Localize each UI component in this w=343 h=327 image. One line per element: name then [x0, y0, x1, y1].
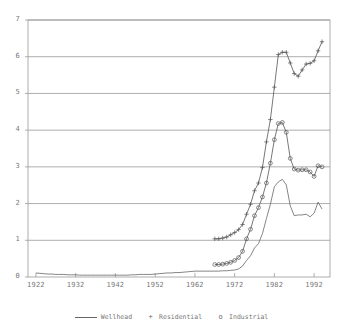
- legend-label-residential: Residential: [159, 313, 202, 321]
- plus-marker-icon: [268, 117, 272, 121]
- y-axis-label: 0: [8, 272, 20, 280]
- x-axis-label: 1992: [297, 281, 331, 289]
- y-axis-label: 5: [8, 88, 20, 96]
- plus-marker-icon: [320, 39, 324, 43]
- chart-container: Wellhead + Residential o Industrial 0123…: [0, 0, 343, 327]
- plus-marker-icon: +: [146, 313, 155, 321]
- y-axis-label: 2: [8, 199, 20, 207]
- x-axis-label: 1942: [98, 281, 132, 289]
- plus-marker-icon: [264, 140, 268, 144]
- line-swatch-icon: [75, 317, 97, 318]
- plus-marker-icon: [248, 202, 252, 206]
- plus-marker-icon: [316, 49, 320, 53]
- plus-marker-icon: [221, 236, 225, 240]
- y-axis-label: 4: [8, 125, 20, 133]
- legend-label-wellhead: Wellhead: [101, 313, 132, 321]
- plus-marker-icon: [272, 85, 276, 89]
- series-line-residential: [215, 42, 322, 239]
- y-axis-label: 6: [8, 52, 20, 60]
- plus-marker-icon: [312, 59, 316, 63]
- x-axis-label: 1952: [138, 281, 172, 289]
- chart-legend: Wellhead + Residential o Industrial: [0, 313, 343, 321]
- y-axis-label: 7: [8, 15, 20, 23]
- plus-marker-icon: [224, 235, 228, 239]
- x-axis-label: 1932: [59, 281, 93, 289]
- legend-label-industrial: Industrial: [229, 313, 268, 321]
- x-axis-label: 1962: [178, 281, 212, 289]
- circle-marker-icon: o: [216, 313, 225, 321]
- series-line-wellhead: [36, 179, 322, 275]
- plus-marker-icon: [260, 165, 264, 169]
- plus-marker-icon: [284, 50, 288, 54]
- plus-marker-icon: [304, 62, 308, 66]
- legend-item-residential: + Residential: [146, 313, 202, 321]
- plus-marker-icon: [308, 61, 312, 65]
- plus-marker-icon: [292, 71, 296, 75]
- plus-marker-icon: [256, 181, 260, 185]
- plus-marker-icon: [276, 52, 280, 56]
- plot-frame: [28, 20, 330, 277]
- legend-item-industrial: o Industrial: [216, 313, 268, 321]
- plus-marker-icon: [296, 74, 300, 78]
- y-axis-label: 1: [8, 235, 20, 243]
- plus-marker-icon: [252, 189, 256, 193]
- x-axis-label: 1982: [257, 281, 291, 289]
- plus-marker-icon: [300, 68, 304, 72]
- plus-marker-icon: [228, 233, 232, 237]
- x-axis-label: 1922: [19, 281, 53, 289]
- legend-item-wellhead: Wellhead: [75, 313, 132, 321]
- plot-area: [0, 0, 343, 327]
- x-axis-label: 1972: [218, 281, 252, 289]
- plus-marker-icon: [244, 212, 248, 216]
- plus-marker-icon: [280, 50, 284, 54]
- y-axis-label: 3: [8, 162, 20, 170]
- series-line-industrial: [215, 122, 322, 264]
- plus-marker-icon: [288, 61, 292, 65]
